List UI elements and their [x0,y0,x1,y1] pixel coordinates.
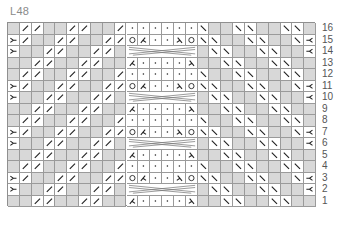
empty-cell [44,35,56,47]
empty-cell [209,115,221,127]
empty-cell [20,92,32,104]
empty-cell [79,46,91,58]
left-slant-icon [245,81,257,93]
empty-cell [198,150,210,162]
right-decrease-icon [186,104,198,116]
left-slant-icon [221,92,233,104]
empty-cell [304,161,316,173]
right-slant-icon [55,92,67,104]
right-slant-icon [55,138,67,150]
empty-cell [103,196,115,208]
purl-dot-icon [150,115,162,127]
right-decrease-icon [186,196,198,208]
left-slant-icon [233,150,245,162]
empty-cell [245,58,257,70]
right-slant-icon [32,150,44,162]
y-stitch-mirrored-icon [304,46,316,58]
chart-row [8,196,314,208]
purl-dot-icon [127,23,139,35]
empty-cell [209,104,221,116]
row-number: 11 [322,80,338,92]
cable-cross-icon [127,92,198,104]
empty-cell [257,58,269,70]
empty-cell [115,196,127,208]
purl-dot-icon [162,23,174,35]
empty-cell [269,23,281,35]
left-slant-icon [292,69,304,81]
purl-dot-icon [127,115,139,127]
purl-dot-icon [138,104,150,116]
empty-cell [32,35,44,47]
y-stitch-icon [8,81,20,93]
empty-cell [209,196,221,208]
left-slant-icon [233,104,245,116]
empty-cell [221,127,233,139]
yarn-over-icon [186,173,198,185]
empty-cell [32,184,44,196]
empty-cell [44,23,56,35]
empty-cell [91,127,103,139]
left-slant-icon [269,196,281,208]
purl-dot-icon [138,58,150,70]
yarn-over-icon [127,173,139,185]
purl-dot-icon [150,23,162,35]
empty-cell [91,81,103,93]
empty-cell [8,104,20,116]
right-slant-icon [79,150,91,162]
left-slant-icon [198,127,210,139]
right-slant-icon [103,35,115,47]
purl-dot-icon [162,104,174,116]
empty-cell [67,58,79,70]
left-slant-icon [221,138,233,150]
right-slant-icon [79,115,91,127]
right-slant-icon [67,127,79,139]
right-slant-icon [55,46,67,58]
chart-row [8,35,314,47]
row-number: 14 [322,45,338,57]
empty-cell [198,104,210,116]
right-slant-icon [20,35,32,47]
empty-cell [67,150,79,162]
purl-dot-icon [174,104,186,116]
purl-dot-icon [174,161,186,173]
row-number: 10 [322,91,338,103]
right-slant-icon [91,58,103,70]
right-slant-icon [103,92,115,104]
left-slant-icon [257,46,269,58]
left-slant-icon [269,46,281,58]
right-slant-icon [44,92,56,104]
empty-cell [67,196,79,208]
chart-row [8,46,314,58]
chart-row [8,161,314,173]
right-slant-icon [115,173,127,185]
left-slant-icon [245,161,257,173]
right-slant-icon [20,173,32,185]
empty-cell [8,161,20,173]
empty-cell [103,69,115,81]
cable-cross-icon [127,138,198,150]
left-slant-icon [209,184,221,196]
right-slant-icon [20,81,32,93]
right-slant-icon [103,173,115,185]
purl-dot-icon [150,58,162,70]
row-number: 8 [322,114,338,126]
empty-cell [245,150,257,162]
empty-cell [304,23,316,35]
left-slant-icon [292,161,304,173]
right-slant-icon [55,184,67,196]
purl-dot-icon [138,69,150,81]
purl-dot-icon [150,150,162,162]
left-decrease-icon [138,173,150,185]
purl-dot-icon [186,161,198,173]
left-slant-icon [269,184,281,196]
empty-cell [233,46,245,58]
left-slant-icon [233,161,245,173]
left-slant-icon [198,69,210,81]
empty-cell [44,161,56,173]
yarn-over-icon [186,81,198,93]
empty-cell [292,104,304,116]
empty-cell [209,69,221,81]
empty-cell [198,196,210,208]
left-slant-icon [245,115,257,127]
empty-cell [20,104,32,116]
